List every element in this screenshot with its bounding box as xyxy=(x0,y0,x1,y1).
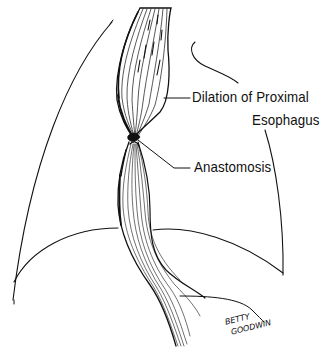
label-dilation-line1: Dilation of Proximal xyxy=(192,89,309,106)
diaphragm-left xyxy=(14,228,118,282)
label-anastomosis: Anastomosis xyxy=(194,159,271,176)
left-pleura-line xyxy=(13,22,112,300)
proximal-esophagus xyxy=(117,8,171,138)
lower-right-contour xyxy=(180,296,264,322)
right-upper-pleura-line xyxy=(192,42,238,83)
label-dilation-line2: Esophagus xyxy=(252,112,320,129)
diaphragm-right xyxy=(153,229,283,273)
distal-esophagus xyxy=(118,142,205,346)
right-pleura-line xyxy=(265,130,283,275)
anastomosis-leader-line xyxy=(138,140,190,168)
illustration-canvas xyxy=(0,0,331,354)
